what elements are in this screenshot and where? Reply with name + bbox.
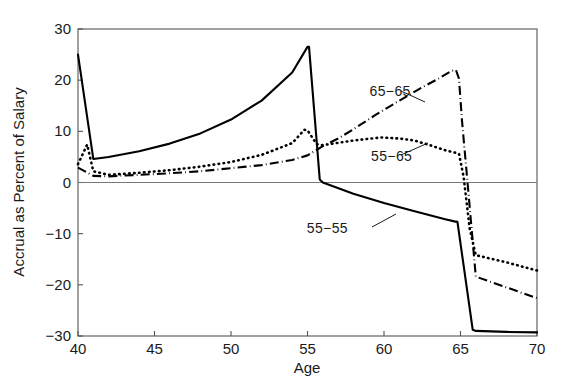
series-label-65-65: 65−65 [369, 83, 410, 99]
y-tick-label: 0 [63, 174, 71, 191]
x-tick-label: 60 [376, 340, 393, 357]
y-tick-label: 20 [54, 71, 71, 88]
series-label-55-55: 55−55 [307, 220, 348, 236]
x-tick-label: 45 [146, 340, 163, 357]
x-tick-label: 40 [70, 340, 87, 357]
x-axis-title: Age [294, 359, 321, 376]
x-tick-label: 70 [529, 340, 546, 357]
x-tick-label: 55 [299, 340, 316, 357]
accrual-vs-age-chart: 40455055606570 −30−20−100102030 Age Accr… [0, 0, 567, 390]
x-tick-label: 65 [452, 340, 469, 357]
y-tick-label: 30 [54, 20, 71, 37]
y-tick-label: −30 [46, 327, 71, 344]
y-tick-label: 10 [54, 122, 71, 139]
x-tick-label: 50 [223, 340, 240, 357]
y-tick-label: −20 [46, 276, 71, 293]
y-tick-label: −10 [46, 225, 71, 242]
y-axis-title: Accrual as Percent of Salary [10, 87, 27, 277]
series-label-55-65: 55−65 [371, 148, 412, 164]
